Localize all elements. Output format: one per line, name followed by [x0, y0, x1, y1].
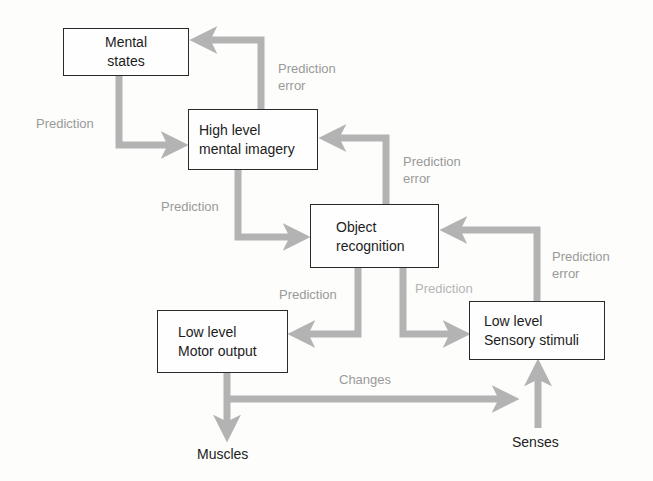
label-line: error: [552, 265, 610, 282]
label-line: Prediction: [403, 153, 461, 170]
label-line: error: [403, 170, 461, 187]
node-label-line: mental imagery: [199, 140, 317, 159]
arrow-prediction-ms-hl: [119, 75, 176, 145]
node-label-line: High level: [199, 121, 317, 140]
node-label-line: Low level: [178, 323, 287, 342]
label-line: error: [278, 77, 336, 94]
node-low-level-motor-output: Low level Motor output: [157, 310, 288, 373]
label-prediction-or-ss: Prediction: [415, 280, 473, 297]
node-label-line: Sensory stimuli: [484, 331, 604, 350]
node-high-level-mental-imagery: High level mental imagery: [188, 109, 318, 170]
label-line: Prediction: [552, 248, 610, 265]
node-label-line: Motor output: [178, 342, 287, 361]
node-label-line: Object: [336, 218, 438, 237]
label-prediction-ms-hl: Prediction: [36, 115, 94, 132]
terminal-senses: Senses: [512, 434, 559, 450]
arrow-prediction-or-ss: [403, 267, 458, 334]
node-low-level-sensory-stimuli: Low level Sensory stimuli: [469, 301, 605, 360]
arrow-error-hl-ms: [202, 40, 261, 109]
terminal-muscles: Muscles: [197, 446, 248, 462]
arrow-error-or-hl: [331, 138, 386, 204]
label-error-or-hl: Prediction error: [403, 153, 461, 187]
arrow-prediction-hl-or: [238, 169, 298, 237]
label-prediction-or-mo: Prediction: [279, 286, 337, 303]
node-mental-states: Mental states: [63, 28, 189, 76]
node-object-recognition: Object recognition: [310, 204, 439, 268]
label-error-hl-ms: Prediction error: [278, 60, 336, 94]
label-error-ss-or: Prediction error: [552, 248, 610, 282]
label-prediction-hl-or: Prediction: [161, 198, 219, 215]
predictive-processing-diagram: Mental states High level mental imagery …: [0, 0, 653, 481]
node-label-line: recognition: [336, 237, 438, 256]
label-changes: Changes: [339, 371, 391, 388]
node-label-line: Mental: [64, 33, 188, 52]
node-label-line: states: [64, 52, 188, 71]
label-line: Prediction: [278, 60, 336, 77]
node-label-line: Low level: [484, 312, 604, 331]
